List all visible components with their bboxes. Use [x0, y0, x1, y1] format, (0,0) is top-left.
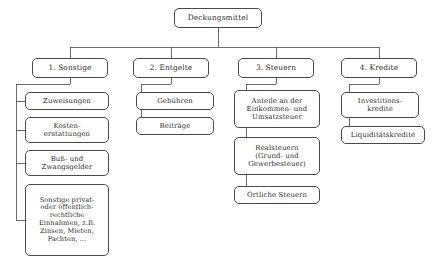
branch-node-4-kredite[interactable]: 4. Kredite	[341, 58, 417, 78]
diagram-canvas: Deckungsmittel1. SonstigeZuweisungenKost…	[0, 0, 435, 271]
leaf-node-investitions[interactable]: Investitions- kredite	[341, 92, 419, 118]
leaf-node-beitraege[interactable]: Beiträge	[136, 117, 214, 135]
branch-node-1-sonstige[interactable]: 1. Sonstige	[32, 58, 108, 78]
branch-node-2-entgelte[interactable]: 2. Entgelte	[133, 58, 209, 78]
leaf-node-anteile-an-der[interactable]: Anteile an der Einkommen- und Umsatzsteu…	[234, 90, 320, 128]
leaf-node-liquiditaetskredite[interactable]: Liquiditätskredite	[341, 126, 425, 144]
leaf-node-sonstige-privat[interactable]: Sonstige privat- oder öffentlich- rechtl…	[25, 184, 109, 256]
leaf-node-oertliche-steuern[interactable]: Örtliche Steuern	[234, 186, 320, 204]
leaf-node-gebuehren[interactable]: Gebühren	[136, 92, 214, 110]
leaf-node-zuweisungen[interactable]: Zuweisungen	[25, 92, 109, 110]
leaf-node-kosten[interactable]: Kosten- erstattungen	[25, 117, 109, 143]
leaf-node-buss-und[interactable]: Buß- und Zwangsgelder	[25, 150, 109, 176]
branch-node-3-steuern[interactable]: 3. Steuern	[238, 58, 314, 78]
leaf-node-realsteuern[interactable]: Realsteuern (Grund- und Gewerbesteuer)	[234, 137, 320, 175]
root-node-deckungsmittel[interactable]: Deckungsmittel	[174, 8, 262, 28]
